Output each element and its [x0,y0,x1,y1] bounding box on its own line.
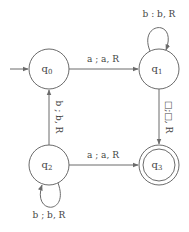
state-q2: q2 [29,145,69,185]
edge-label-q1-loop: b : b, R [143,9,176,19]
edge-label-q2-loop: b ; b, R [33,210,66,220]
edge-label-q0-q1: a ; a, R [87,54,119,64]
state-q1: q1 [139,49,179,89]
edge-q2-loop [40,183,60,207]
state-q3-accepting: q3 [139,145,179,185]
edge-label-q1-q3: □;□, R [164,101,174,134]
state-q0: q0 [29,49,69,89]
edge-label-q2-q3: a ; a, R [87,150,119,160]
edge-q1-loop [148,28,169,51]
edge-label-q2-q0: b ; b, R [54,101,64,134]
state-diagram: a ; a, R b : b, R □;□, R b ; b, R a ; a,… [0,0,189,232]
